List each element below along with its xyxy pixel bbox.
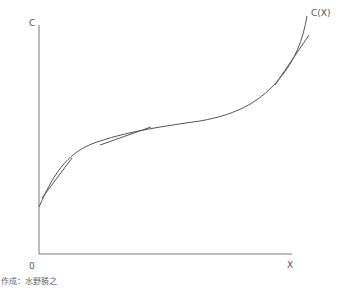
tangent-line-2 [100,127,151,145]
cost-curve-diagram [0,0,348,293]
credit-text: 作成：水野勝之 [1,275,57,286]
origin-label: 0 [29,262,35,271]
x-axis-label: X [287,261,293,270]
curve-label: C(X) [311,9,330,18]
tangent-line-3 [275,35,309,85]
cost-curve [39,16,307,207]
tangent-line-1 [42,158,72,198]
y-axis-label: C [29,19,35,28]
